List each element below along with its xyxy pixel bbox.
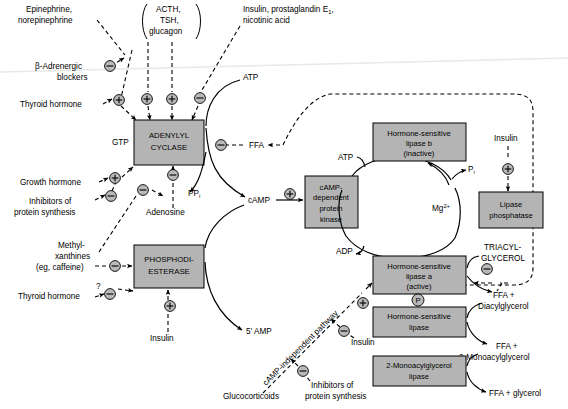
symbol-methylxanthines-minus-adenylyl (138, 185, 149, 196)
symbol-thyroid-plus (114, 95, 125, 106)
symbol-camp-independent-plus (358, 298, 369, 309)
symbol-inhibitors-minus-top (106, 191, 117, 202)
curve-maglipase-to-ffa-glycerol (467, 372, 486, 392)
curve-pde-to-5amp (205, 262, 242, 330)
symbol-acth-plus (167, 94, 178, 105)
label-methylxanthines-line1: Methyl- (58, 241, 85, 250)
label-pi: Pi (468, 165, 475, 175)
hsl-b-label-line2: lipase b (406, 139, 432, 148)
label-nicotinic-acid: nicotinic acid (243, 16, 290, 25)
label-ffa-diacylglycerol-line2: Diacylglycerol (478, 302, 529, 311)
cycle-arc-to-lipaseb (428, 163, 449, 185)
arrow-growth-hormone-to-cyclase (122, 167, 133, 177)
label-thyroid-hormone-bottom: Thyroid hormone (18, 292, 80, 301)
label-triacylglycerol-line2: GLYCEROL (481, 254, 525, 263)
tick-pi (452, 170, 466, 179)
bracket-left (143, 4, 148, 39)
label-adp-cycle: ADP (336, 247, 353, 256)
lipolysis-pathway-diagram: Epinephrine, norepinephrine ACTH, TSH, g… (0, 0, 568, 409)
symbol-insulin-minus-top (195, 93, 206, 104)
hsl-a-label-line2: lipase a (406, 272, 433, 281)
arrow-growth-hormone-to-plus (99, 178, 108, 182)
label-inhibitors-top-line2: protein synthesis (14, 208, 75, 217)
label-tsh: TSH, (160, 16, 179, 25)
arrow-methyl-to-adenosine (152, 190, 163, 196)
hsl-plain-label-line1: Hormone-sensitive (387, 312, 450, 321)
label-growth-hormone: Growth hormone (20, 178, 81, 187)
arrow-thyroid-bottom-to-pde (118, 289, 133, 291)
p-glyph: P (415, 296, 420, 305)
curve-lipasea-to-ffa-dag (467, 276, 492, 292)
cycle-arc-bottomright (404, 238, 455, 258)
label-5-amp: 5' AMP (246, 327, 272, 336)
curve-hsl-to-ffa-mag (467, 322, 487, 344)
symbol-adenosine-minus (168, 170, 179, 181)
label-ppi: PPi (188, 189, 200, 199)
label-ffa: FFA (249, 141, 265, 150)
bracket-right (196, 4, 201, 39)
label-inhibitors-top-line1: Inhibitors of (29, 197, 72, 206)
symbol-thyroid-bottom-minus (105, 289, 116, 300)
symbol-epinephrine-plus (142, 94, 153, 105)
label-insulin-prostaglandin: Insulin, prostaglandin E1, (243, 5, 334, 15)
arrow-insulin-minus-to-cyclase (192, 106, 198, 120)
label-insulin-phosphatase: Insulin (494, 134, 518, 143)
label-acth: ACTH, (156, 5, 181, 14)
kinase-label-line4: kinase (320, 215, 342, 224)
arrow-thyroid-to-plus (103, 99, 112, 104)
label-inhibitors-bottom-line1: Inhibitors of (311, 381, 354, 390)
label-methylxanthines-line3: (eg, caffeine) (36, 263, 84, 272)
symbol-inhibitors-bottom-minus (298, 366, 309, 377)
lipase-phosphatase-label-line1: Lipase (500, 200, 522, 209)
symbol-insulin-phosphatase-plus (503, 164, 514, 175)
label-beta-blockers-line1: β-Adrenergic (35, 62, 82, 71)
diagram-canvas: Epinephrine, norepinephrine ACTH, TSH, g… (0, 0, 568, 409)
symbol-beta-blockers-minus (105, 61, 116, 72)
mag-lipase-label-line1: 2-Monoacylglycerol (386, 361, 452, 370)
symbol-ffa-minus (216, 140, 227, 151)
label-methylxanthines-line2: xanthines (55, 252, 90, 261)
label-glucocorticoids: Glucocorticoids (223, 392, 279, 401)
label-question-mark: ? (96, 282, 101, 291)
arrow-feedback-y-join (497, 283, 502, 291)
scan-artifact (0, 58, 568, 72)
label-adenosine: Adenosine (146, 208, 185, 217)
curve-camp-to-pde (205, 205, 244, 248)
arrow-acth-plus-to-cyclase (148, 106, 150, 120)
hsl-b-label-line1: Hormone-sensitive (387, 129, 450, 138)
lipase-phosphatase-label-line2: phosphatase (489, 211, 533, 220)
arrow-insulin-prostaglandin-down (202, 26, 240, 90)
symbol-methylxanthines-minus (110, 261, 121, 272)
label-atp-cycle: ATP (338, 153, 354, 162)
label-gtp: GTP (112, 138, 129, 147)
label-mg: Mg2+ (432, 203, 451, 213)
arrow-atp-to-cyclase (206, 80, 240, 126)
label-ffa-monoacylglycerol-line1: FFA + (496, 342, 518, 351)
phosphodiesterase-label-line1: PHOSPHODI- (144, 255, 194, 264)
hsl-b-label-line3: (inactive) (404, 149, 435, 158)
label-ffa-diacylglycerol-line1: FFA + (493, 291, 515, 300)
arrow-inhibitors-to-minus (95, 195, 105, 200)
lipase-phosphatase-box[interactable] (479, 192, 543, 228)
label-glucagon: glucagon (149, 27, 183, 36)
phosphorylation-p-symbol: P (412, 294, 424, 306)
arrow-methylxanthines-up (99, 196, 136, 252)
label-insulin-pde: Insulin (150, 334, 174, 343)
symbol-triacylglycerol-minus (482, 264, 493, 275)
arrow-inhibitors-bottom-to-minus (306, 376, 310, 381)
arrow-camp-independent-pathway (263, 293, 362, 393)
label-thyroid-hormone-top: Thyroid hormone (20, 100, 82, 109)
label-insulin-camp-indep: Insulin (351, 338, 375, 347)
kinase-label-line1: cAMP- (320, 183, 343, 192)
symbol-insulin-pde-plus (165, 301, 176, 312)
arrow-thyroid-bottom-to-minus (95, 294, 104, 297)
mag-lipase-label-line2: lipase (409, 372, 429, 381)
hsl-a-label-line3: (active) (407, 282, 432, 291)
arrow-epinephrine-to-plus (121, 50, 132, 98)
label-epinephrine-line1: Epinephrine, (26, 5, 72, 14)
label-atp-top: ATP (243, 73, 259, 82)
adenylyl-cyclase-label-line1: ADENYLYL (149, 131, 190, 140)
label-epinephrine-line2: norepinephrine (18, 16, 73, 25)
curve-tag-to-lipasea (467, 256, 479, 268)
symbol-camp-plus (285, 189, 296, 200)
